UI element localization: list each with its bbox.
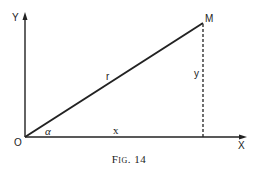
label-angle: α	[45, 125, 51, 137]
label-origin: O	[14, 137, 22, 148]
y-axis-arrow-icon	[23, 12, 28, 20]
radius-line-r	[25, 23, 203, 137]
coordinate-diagram: Y O M r y α x X	[0, 0, 258, 178]
label-radius: r	[106, 71, 110, 82]
label-y-axis: Y	[12, 12, 19, 23]
label-x-segment: x	[113, 124, 119, 136]
label-point-m: M	[205, 13, 213, 24]
label-x-axis: X	[238, 140, 245, 151]
x-axis-arrow-icon	[239, 135, 247, 140]
label-y-segment: y	[194, 68, 199, 79]
figure-caption: Fig. 14	[0, 153, 258, 165]
